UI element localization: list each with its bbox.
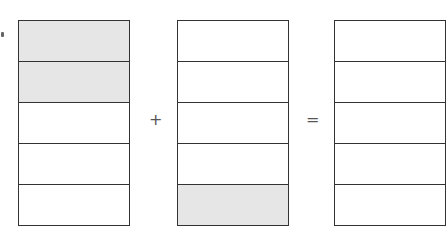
empty-cell [178, 21, 288, 62]
empty-cell [335, 21, 445, 62]
first-fraction-bar [18, 20, 130, 226]
empty-cell [19, 144, 129, 185]
edge-mark [1, 32, 4, 37]
equals-sign: = [306, 110, 319, 129]
shaded-cell [19, 21, 129, 62]
shaded-cell [178, 185, 288, 225]
empty-cell [19, 185, 129, 225]
plus-sign: + [149, 110, 162, 129]
empty-cell [178, 103, 288, 144]
second-fraction-bar [177, 20, 289, 226]
result-fraction-bar [334, 20, 446, 226]
empty-cell [178, 144, 288, 185]
empty-cell [335, 62, 445, 103]
shaded-cell [19, 62, 129, 103]
empty-cell [178, 62, 288, 103]
empty-cell [19, 103, 129, 144]
empty-cell [335, 185, 445, 225]
empty-cell [335, 144, 445, 185]
empty-cell [335, 103, 445, 144]
